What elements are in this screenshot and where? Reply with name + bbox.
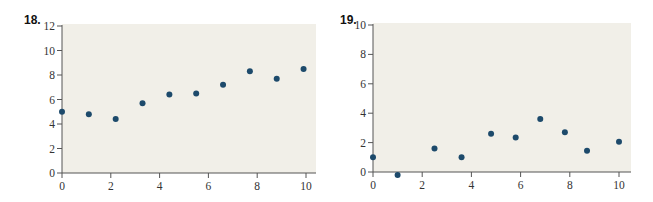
- x-tick-label: 4: [469, 179, 475, 191]
- data-point: [488, 131, 494, 137]
- x-tick-label: 8: [254, 180, 260, 192]
- y-tick-label: 2: [360, 137, 366, 149]
- y-tick-label: 8: [49, 69, 55, 81]
- data-point: [370, 154, 376, 160]
- y-tick-label: 10: [44, 45, 56, 57]
- data-point: [562, 129, 568, 135]
- y-tick-label: 4: [49, 118, 55, 130]
- x-tick-label: 2: [108, 180, 114, 192]
- y-tick-label: 4: [360, 107, 366, 119]
- data-point: [537, 116, 543, 122]
- plot-area: [62, 24, 316, 173]
- x-tick-label: 4: [157, 180, 163, 192]
- data-point: [584, 148, 590, 154]
- data-point: [220, 82, 226, 88]
- x-tick-label: 0: [370, 179, 376, 191]
- x-tick-label: 6: [206, 180, 212, 192]
- scatter-chart-19: 02468100246810: [330, 0, 653, 202]
- y-tick-label: 10: [355, 19, 367, 31]
- data-point: [86, 111, 92, 117]
- y-tick-label: 6: [49, 94, 55, 106]
- data-point: [193, 90, 199, 96]
- data-point: [59, 109, 65, 115]
- y-tick-label: 0: [360, 166, 366, 178]
- x-tick-label: 2: [419, 179, 425, 191]
- data-point: [166, 92, 172, 98]
- data-point: [513, 134, 519, 140]
- data-point: [274, 76, 280, 82]
- data-point: [140, 100, 146, 106]
- plot-area: [373, 23, 631, 172]
- x-tick-label: 8: [567, 179, 573, 191]
- x-tick-label: 6: [518, 179, 524, 191]
- x-tick-label: 10: [613, 179, 625, 191]
- data-point: [301, 66, 307, 72]
- y-tick-label: 0: [49, 167, 55, 179]
- y-tick-label: 8: [360, 48, 366, 60]
- y-tick-label: 6: [360, 78, 366, 90]
- data-point: [616, 139, 622, 145]
- y-tick-label: 12: [44, 20, 56, 32]
- data-point: [432, 145, 438, 151]
- data-point: [247, 68, 253, 74]
- data-point: [459, 154, 465, 160]
- data-point: [113, 116, 119, 122]
- x-tick-label: 10: [300, 180, 312, 192]
- scatter-chart-18: 0246810120246810: [0, 0, 330, 202]
- y-tick-label: 2: [49, 143, 55, 155]
- data-point: [395, 172, 401, 178]
- x-tick-label: 0: [59, 180, 65, 192]
